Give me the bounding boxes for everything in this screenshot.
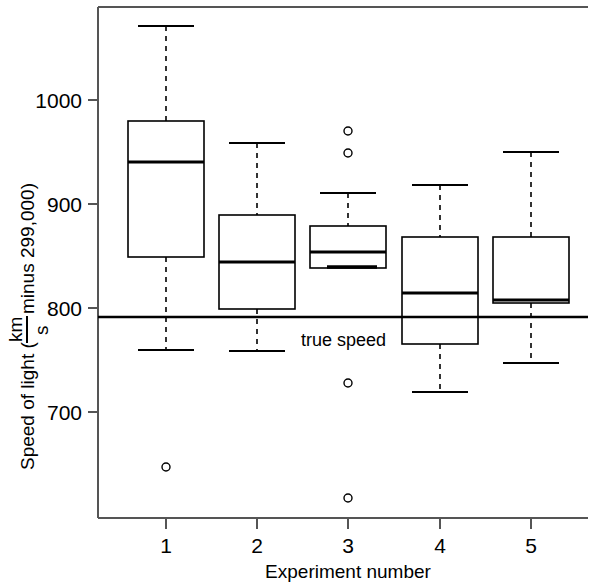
boxplot-figure: 1000 900 800 700 1 2 3 4 5 Experiment nu… [0,0,589,582]
chart-svg: 1000 900 800 700 1 2 3 4 5 Experiment nu… [0,0,589,582]
x-tick-label-3: 3 [342,534,354,557]
y-tick-label-1000: 1000 [35,89,82,112]
x-tick-label-5: 5 [525,534,537,557]
y-axis-title-numerator: km [5,317,26,342]
x-axis-title: Experiment number [265,561,431,582]
y-tick-label-900: 900 [47,193,82,216]
y-axis-title-prefix: Speed of light ( [17,342,38,470]
x-tick-label-1: 1 [160,534,172,557]
y-tick-label-700: 700 [47,401,82,424]
x-tick-label-2: 2 [251,534,263,557]
x-tick-label-4: 4 [434,534,446,557]
y-axis-title-suffix: minus 299,000) [17,183,38,314]
y-tick-label-800: 800 [47,297,82,320]
true-speed-label: true speed [301,330,386,350]
y-axis-title-denominator: s [31,326,52,336]
